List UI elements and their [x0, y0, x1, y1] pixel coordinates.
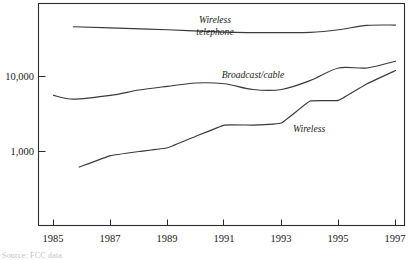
x-axis-ticks	[54, 220, 396, 226]
x-tick-label-1987: 1987	[100, 233, 121, 244]
y-tick-label-1000: 1,000	[10, 146, 34, 157]
series-line-wireless-telephone	[73, 25, 395, 33]
y-axis-labels: 10,000 1,000	[5, 71, 34, 157]
series-line-broadcast-cable	[54, 61, 396, 99]
x-tick-label-1991: 1991	[214, 233, 235, 244]
x-tick-label-1989: 1989	[157, 233, 178, 244]
series-label-wireless: Wireless	[293, 123, 325, 134]
series-label-broadcast-cable: Broadcast/cable	[222, 69, 285, 80]
source-footnote: Source: FCC data	[2, 251, 132, 260]
x-tick-label-1993: 1993	[271, 233, 292, 244]
series-line-wireless	[79, 71, 395, 168]
y-tick-label-10000: 10,000	[5, 71, 34, 82]
x-axis-labels: 1985 1987 1989 1991 1993 1995 1997	[43, 233, 406, 244]
series-label-wireless-telephone-line1: Wireless	[199, 14, 231, 25]
x-tick-label-1997: 1997	[385, 233, 406, 244]
x-tick-label-1995: 1995	[328, 233, 349, 244]
y-axis-ticks	[39, 77, 46, 152]
series-label-wireless-telephone-line2: telephone	[196, 26, 234, 37]
x-tick-label-1985: 1985	[43, 233, 64, 244]
